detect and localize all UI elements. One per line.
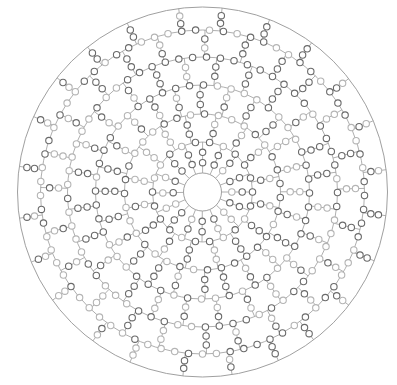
spoke-segment xyxy=(278,164,306,172)
bead-marker xyxy=(339,222,345,228)
bead-marker xyxy=(310,111,316,117)
bead-marker xyxy=(262,142,268,148)
bead-marker xyxy=(230,320,236,326)
bead-marker xyxy=(126,291,132,297)
bead-marker xyxy=(38,206,44,212)
spoke-segment xyxy=(261,20,269,41)
bead-marker xyxy=(124,56,130,62)
bead-marker xyxy=(254,97,260,103)
bead-marker xyxy=(239,288,245,294)
bead-marker xyxy=(227,160,233,166)
spoke-segment xyxy=(160,127,175,151)
bead-marker xyxy=(256,311,262,317)
bead-marker xyxy=(186,247,192,253)
bead-marker xyxy=(172,282,178,288)
bead-marker xyxy=(263,233,269,239)
bead-marker xyxy=(187,112,193,118)
bead-marker xyxy=(231,260,237,266)
spoke-segment xyxy=(241,99,255,124)
bead-marker xyxy=(232,227,238,233)
bead-marker xyxy=(198,296,204,302)
bead-marker xyxy=(241,123,247,129)
bead-marker xyxy=(31,213,37,219)
bead-marker xyxy=(99,325,105,331)
bead-marker xyxy=(248,154,254,160)
bead-marker xyxy=(38,178,44,184)
bead-marker xyxy=(339,153,345,159)
bead-marker xyxy=(300,85,306,91)
spoke-segment xyxy=(100,214,128,222)
bead-marker xyxy=(368,168,374,174)
bead-marker xyxy=(96,314,102,320)
bead-marker xyxy=(307,233,313,239)
bead-marker xyxy=(264,24,270,30)
bead-marker xyxy=(159,51,165,57)
bead-marker xyxy=(213,64,219,70)
spoke-segment xyxy=(185,145,196,174)
bead-marker xyxy=(299,149,305,155)
bead-marker xyxy=(270,122,276,128)
bead-marker xyxy=(150,222,156,228)
bead-marker xyxy=(151,155,157,161)
spoke-segment xyxy=(174,89,182,117)
bead-marker xyxy=(172,178,178,184)
bead-marker xyxy=(66,168,72,174)
bead-marker xyxy=(305,204,311,210)
bead-marker xyxy=(281,81,287,87)
spoke-segment xyxy=(221,268,228,296)
bead-marker xyxy=(165,31,171,37)
bead-marker xyxy=(188,323,194,329)
bead-marker xyxy=(172,348,178,354)
spoke-segment xyxy=(297,76,316,95)
bead-marker xyxy=(268,305,274,311)
bead-marker xyxy=(143,149,149,155)
spoke-segment xyxy=(269,233,294,248)
bead-marker xyxy=(131,258,137,264)
bead-marker xyxy=(269,96,275,102)
spoke-segment xyxy=(214,58,217,86)
bead-marker xyxy=(102,59,108,65)
bead-marker xyxy=(179,234,185,240)
spoke-segment xyxy=(200,85,201,114)
bead-marker xyxy=(113,85,119,91)
bead-marker xyxy=(274,167,280,173)
bead-marker xyxy=(130,352,136,358)
bead-marker xyxy=(317,144,323,150)
bead-marker xyxy=(184,295,190,301)
bead-marker xyxy=(199,149,205,155)
bead-marker xyxy=(179,143,185,149)
spoke-segment xyxy=(153,192,184,193)
bead-marker xyxy=(291,288,297,294)
bead-marker xyxy=(89,50,95,56)
bead-marker xyxy=(280,297,286,303)
bead-marker xyxy=(292,136,298,142)
bead-marker xyxy=(106,120,112,126)
bead-marker xyxy=(298,231,304,237)
bead-marker xyxy=(345,260,351,266)
bead-marker xyxy=(334,176,340,182)
bead-marker xyxy=(355,234,361,240)
bead-marker xyxy=(325,260,331,266)
bead-marker xyxy=(151,273,157,279)
bead-marker xyxy=(133,230,139,236)
bead-marker xyxy=(179,168,185,174)
spoke-segment xyxy=(231,128,247,151)
bead-marker xyxy=(97,262,103,268)
bead-marker xyxy=(248,305,254,311)
bead-marker xyxy=(358,220,364,226)
bead-marker xyxy=(51,151,57,157)
bead-marker xyxy=(65,115,71,121)
bead-marker xyxy=(324,170,330,176)
bead-marker xyxy=(244,253,250,259)
bead-marker xyxy=(323,243,329,249)
bead-marker xyxy=(137,251,143,257)
bead-marker xyxy=(132,150,138,156)
bead-marker xyxy=(301,291,307,297)
bead-marker xyxy=(315,204,321,210)
bead-marker xyxy=(202,276,208,282)
bead-marker xyxy=(285,124,291,130)
bead-marker xyxy=(189,161,195,167)
bead-marker xyxy=(264,274,270,280)
bead-marker xyxy=(229,189,235,195)
bead-marker xyxy=(60,153,66,159)
